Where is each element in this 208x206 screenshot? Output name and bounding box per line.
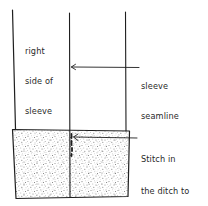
- label-line: side of: [25, 76, 53, 86]
- right-side-of-sleeve-label: right side of sleeve: [25, 26, 53, 126]
- seamline-arrow-icon: [71, 64, 139, 69]
- label-line: the ditch to: [141, 186, 189, 197]
- cuff: [13, 130, 130, 199]
- label-line: Stitch in: [141, 154, 189, 165]
- label-line: sleeve: [25, 106, 53, 116]
- label-line: seamline: [141, 111, 179, 121]
- label-line: right: [25, 46, 53, 56]
- sleeve-seamline-label: sleeve seamline: [141, 61, 179, 131]
- stitch-in-ditch-label: Stitch in the ditch to attach cuff to sl…: [141, 133, 189, 206]
- sleeve-seamline: [70, 13, 71, 197]
- label-line: sleeve: [141, 81, 179, 91]
